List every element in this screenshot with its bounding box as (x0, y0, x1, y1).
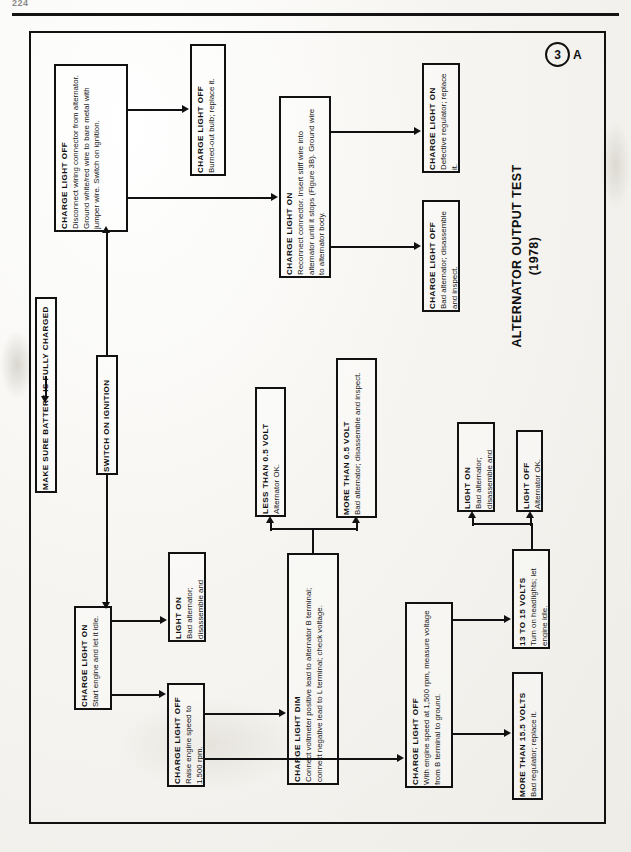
node-header: LIGHT OFF (522, 437, 532, 509)
node-header: CHARGE LIGHT ON (285, 103, 295, 275)
node-body: Start engine and let it idle. (91, 613, 102, 707)
arrowhead (159, 690, 166, 698)
node-charge-light-on-reconnect: CHARGE LIGHT ON Reconnect connector. Ins… (279, 96, 331, 278)
node-body: Turn on headlights; let engine idle. (529, 556, 550, 646)
node-header: MORE THAN 0.5 VOLT (342, 365, 352, 515)
arrowhead (526, 511, 534, 518)
node-body: Alternator OK. (533, 437, 543, 509)
node-charge-light-off-disconnect: CHARGE LIGHT OFF Disconnect wiring conne… (54, 64, 128, 232)
arrowhead (160, 616, 167, 624)
node-13-to-15-volts: 13 TO 15 VOLTS Turn on headlights; let e… (512, 549, 550, 649)
node-charge-light-on-regulator: CHARGE LIGHT ON Defective regulator; rep… (422, 63, 460, 173)
node-body: Burned-out bulb; replace it. (207, 51, 218, 173)
node-header: CHARGE LIGHT OFF (60, 71, 70, 229)
edge-raise-speed-to-measure (205, 758, 397, 760)
edge-raise-speed-to-dim (205, 713, 279, 715)
node-body: Raise engine speed to 1,500 rpm. (184, 690, 205, 784)
node-header: LIGHT ON (463, 429, 473, 509)
arrowhead (504, 615, 511, 623)
node-switch-on-ignition: SWITCH ON IGNITION (96, 355, 118, 475)
node-body: Bad alternator; disassemble and inspect. (185, 559, 206, 639)
edge-reconnect-to-bad-alternator (331, 246, 414, 248)
arrowhead (182, 105, 189, 113)
node-body: Bad alternator; disassemble and inspect. (353, 365, 364, 515)
edge-ignition-trunk-down (106, 474, 108, 604)
node-more-than-15-5-volts: MORE THAN 15.5 VOLTS Bad regulator; repl… (512, 672, 543, 800)
node-charge-light-dim: CHARGE LIGHT DIM Connect voltmeter posit… (287, 553, 339, 785)
arrowhead (352, 516, 360, 523)
edge-disconnect-to-bulb (128, 109, 182, 111)
node-body: Alternator OK. (272, 394, 283, 514)
folio-number: 224 (12, 0, 29, 8)
chart-title-year: (1978) (527, 146, 541, 366)
node-header: 13 TO 15 VOLTS (518, 556, 528, 646)
node-header: CHARGE LIGHT ON (80, 613, 90, 707)
chart-title-main: ALTERNATOR OUTPUT TEST (510, 146, 524, 366)
edge-dim-tee (270, 528, 357, 530)
edge-13-15-tee (472, 523, 532, 525)
node-light-off-alternator-ok: LIGHT OFF Alternator OK. (516, 430, 543, 512)
node-more-than-half-volt: MORE THAN 0.5 VOLT Bad alternator; disas… (336, 358, 377, 518)
arrowhead (397, 754, 404, 762)
node-body: Bad alternator; disassemble and inspect. (474, 429, 495, 509)
node-header: CHARGE LIGHT OFF (411, 609, 421, 785)
edge-start-engine-to-raise-speed (112, 694, 159, 696)
node-header: LESS THAN 0.5 VOLT (261, 394, 271, 514)
node-body: Reconnect connector. Insert stiff wire i… (296, 103, 328, 275)
node-header: CHARGE LIGHT OFF (196, 51, 206, 173)
chapter-marker: 3 A (545, 42, 582, 67)
edge-disconnect-to-reconnect (128, 197, 271, 199)
arrowhead (102, 226, 110, 233)
arrowhead (41, 396, 49, 403)
node-charge-light-off-measure-voltage: CHARGE LIGHT OFF With engine speed at 1,… (405, 602, 453, 788)
node-body: Bad alternator; disassemble and inspect. (439, 207, 460, 309)
node-body: Bad regulator; replace it. (529, 679, 540, 797)
edge-measure-to-13-15 (453, 619, 504, 621)
node-body: Connect voltmeter positive lead to alter… (304, 560, 325, 782)
arrowhead (504, 729, 511, 737)
arrowhead (468, 511, 476, 518)
edge-13-15-to-light-off (530, 518, 532, 526)
edge-13-15-stem (531, 523, 533, 549)
node-header: SWITCH ON IGNITION (102, 362, 112, 472)
node-header: CHARGE LIGHT OFF (428, 207, 438, 309)
edge-dim-to-less (270, 523, 272, 531)
arrowhead (102, 602, 110, 609)
edge-ignition-trunk (106, 232, 108, 356)
node-header: CHARGE LIGHT OFF (173, 690, 183, 784)
node-body: Defective regulator; replace it. (439, 70, 460, 170)
node-charge-light-off-raise-speed: CHARGE LIGHT OFF Raise engine speed to 1… (167, 683, 205, 787)
node-body: Disconnect wiring connector from alterna… (71, 71, 103, 229)
manual-page: 224 3 A ALTERNATOR OUTPUT TEST (1978) MA… (0, 0, 631, 852)
node-light-on-bad-alternator-headlights: LIGHT ON Bad alternator; disassemble and… (457, 422, 495, 512)
node-less-than-half-volt: LESS THAN 0.5 VOLT Alternator OK. (255, 387, 286, 517)
edge-dim-stem (312, 528, 314, 554)
node-header: CHARGE LIGHT DIM (293, 560, 303, 782)
arrowhead (279, 709, 286, 717)
arrowhead (414, 127, 421, 135)
edge-dim-to-more (356, 523, 358, 531)
node-light-on-bad-alternator-idle: LIGHT ON Bad alternator; disassemble and… (168, 552, 206, 642)
node-charge-light-off-bad-alternator: CHARGE LIGHT OFF Bad alternator; disasse… (422, 200, 460, 312)
edge-13-15-to-light-on (472, 518, 474, 526)
node-charge-light-on-start-engine: CHARGE LIGHT ON Start engine and let it … (74, 606, 112, 710)
node-header: CHARGE LIGHT ON (428, 70, 438, 170)
header-rule (12, 13, 619, 16)
edge-battery-to-ignition (45, 376, 47, 398)
edge-start-engine-to-light-on (112, 620, 160, 622)
chart-title: ALTERNATOR OUTPUT TEST (1978) (510, 146, 541, 366)
node-header: MORE THAN 15.5 VOLTS (518, 679, 528, 797)
arrowhead (266, 516, 274, 523)
marker-letter: A (573, 48, 582, 62)
node-header: LIGHT ON (174, 559, 184, 639)
edge-measure-to-15-5 (453, 733, 504, 735)
node-body: With engine speed at 1,500 rpm, measure … (422, 609, 443, 785)
edge-reconnect-to-regulator (331, 131, 414, 133)
arrowhead (414, 242, 421, 250)
node-charge-light-off-bulb: CHARGE LIGHT OFF Burned-out bulb; replac… (190, 44, 226, 176)
arrowhead (271, 193, 278, 201)
marker-number: 3 (545, 42, 570, 67)
